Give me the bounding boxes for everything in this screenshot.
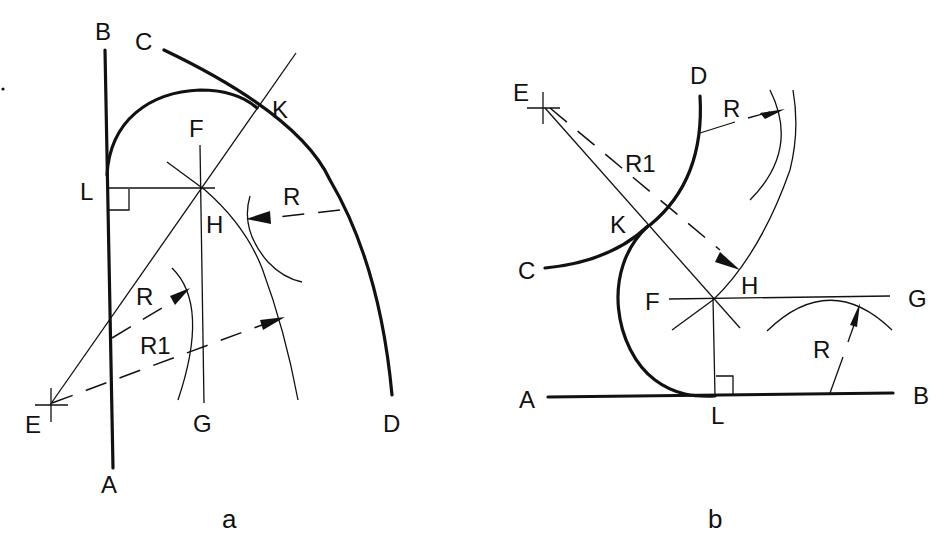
bisector-ne [167, 162, 205, 190]
label-h: H [741, 272, 758, 299]
right-angle-mark [716, 376, 733, 395]
dim-r-bottom-b [848, 325, 854, 342]
label-r-upper: R [283, 183, 300, 210]
line-fl [713, 299, 715, 396]
panel-a: B C K F L H R R R1 E G D A a [25, 18, 400, 534]
label-d: D [690, 62, 707, 89]
line-fg [669, 296, 890, 299]
panel-b: E D R R1 K H C F G R A L B b [513, 62, 929, 534]
right-angle-mark [108, 189, 129, 210]
stray-dot [1, 87, 4, 90]
label-r-top: R [723, 95, 740, 122]
arrow-head [246, 211, 271, 224]
dim-r1 [550, 108, 720, 250]
arc-near-g [172, 268, 193, 400]
arrow-head [760, 109, 785, 119]
line-ek [50, 53, 296, 405]
dim-r-bottom [830, 357, 843, 393]
label-f: F [645, 288, 660, 315]
caption-b: b [708, 504, 722, 534]
label-a: A [101, 471, 117, 498]
bisector-sw [672, 300, 713, 330]
line-ef [545, 108, 740, 328]
label-b: B [913, 382, 929, 409]
label-l: L [80, 178, 93, 205]
label-k: K [610, 211, 626, 238]
label-a: A [519, 386, 535, 413]
label-e: E [25, 411, 41, 438]
caption-a: a [222, 504, 237, 534]
line-ab [548, 393, 893, 397]
label-f: F [189, 115, 204, 142]
label-l: L [711, 402, 724, 429]
label-c: C [518, 257, 535, 284]
line-ab [105, 50, 113, 468]
line-fg [200, 145, 204, 403]
label-c: C [135, 28, 152, 55]
label-d: D [383, 410, 400, 437]
arc-r-top [750, 90, 781, 200]
tangent-arc-lk [107, 90, 257, 175]
arc-dk [650, 96, 700, 225]
dim-r-upper [270, 210, 340, 218]
label-r1: R1 [625, 150, 656, 177]
arrow-head [170, 288, 190, 305]
label-h: H [206, 211, 223, 238]
label-r-lower: R [136, 283, 153, 310]
arrow-head [715, 252, 740, 270]
label-r1: R1 [140, 332, 171, 359]
dim-r-top-a [700, 122, 735, 133]
arrow-head [850, 303, 860, 327]
label-e: E [513, 79, 529, 106]
label-r-bottom: R [813, 336, 830, 363]
label-g: G [193, 410, 212, 437]
tangent-arc-construction-diagram: B C K F L H R R R1 E G D A a [0, 0, 941, 541]
label-k: K [272, 96, 288, 123]
tangent-arc-kl [618, 226, 715, 396]
label-b: B [95, 18, 111, 45]
label-g: G [908, 285, 927, 312]
arc-r-bottom [767, 300, 892, 331]
